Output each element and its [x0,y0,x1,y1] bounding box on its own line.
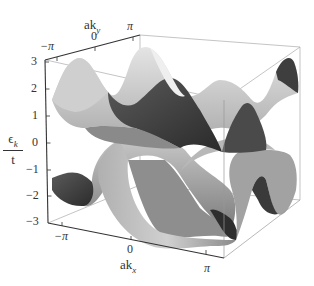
z-axis-denominator: t [3,151,23,168]
z-axis-label: ϵk t [3,131,23,168]
z-tick-neg3: −3 [26,215,39,227]
z-tick-1: 1 [32,109,38,121]
ky-tick-0: 0 [91,30,97,42]
z-tick-neg2: −2 [26,189,39,201]
z-tick-0: 0 [32,136,38,148]
lower-band-surface [52,137,297,249]
z-tick-2: 2 [31,82,37,94]
kx-tick-pi: π [204,262,210,274]
ky-tick-neg-pi: −π [40,40,54,52]
upper-band-surface [52,47,298,153]
kx-tick-neg-pi: −π [54,230,68,242]
z-tick-3: 3 [31,55,37,67]
kx-axis-label: akx [120,258,136,275]
z-subscript: k [14,139,18,149]
z-tick-neg1: −1 [26,163,39,175]
z-axis-numerator: ϵk [3,131,23,151]
kx-subscript: x [132,265,136,275]
ky-tick-pi: π [127,20,133,32]
kx-tick-0: 0 [127,243,133,255]
kx-main: ak [120,257,132,272]
